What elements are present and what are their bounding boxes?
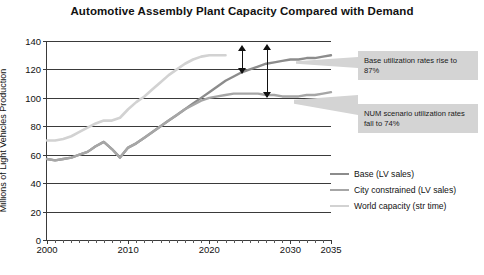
x-tick-2028 [274,240,275,243]
arrow-shaft [267,49,268,97]
y-tick-label-140: 140 [25,36,41,47]
chart-root: Automotive Assembly Plant Capacity Compa… [0,0,484,275]
x-tick-2026 [258,240,259,243]
series-layer [47,41,331,240]
legend-label-world-capacity: World capacity (str time) [354,201,446,211]
x-tick-2017 [185,240,186,243]
x-tick-2003 [71,240,72,243]
x-tick-2012 [144,240,145,243]
arrow-head-down [263,92,271,98]
legend-label-city-constrained: City constrained (LV sales) [354,185,456,195]
x-tick-2035 [331,240,332,244]
y-tick-label-80: 80 [30,121,41,132]
y-tick-label-100: 100 [25,92,41,103]
x-tick-2032 [307,240,308,243]
x-axis-line [46,240,332,241]
x-tick-2011 [136,240,137,243]
legend-item-city-constrained[interactable]: City constrained (LV sales) [330,182,456,198]
x-tick-2018 [193,240,194,243]
y-tick-label-120: 120 [25,64,41,75]
arrow-head-down [238,68,246,74]
y-tick-label-20: 20 [30,206,41,217]
x-tick-2034 [323,240,324,243]
chart-title: Automotive Assembly Plant Capacity Compa… [0,5,484,17]
x-tick-2020 [209,240,210,244]
legend-swatch-base [330,173,349,175]
x-tick-2025 [250,240,251,243]
x-tick-2021 [217,240,218,243]
legend-swatch-world-capacity [330,205,349,207]
x-tick-2002 [63,240,64,243]
legend-label-base: Base (LV sales) [354,169,414,179]
x-tick-2010 [128,240,129,244]
x-tick-2016 [177,240,178,243]
x-tick-2030 [290,240,291,244]
x-tick-2009 [120,240,121,243]
x-tick-2007 [104,240,105,243]
x-tick-label-2030: 2030 [280,244,301,255]
x-tick-2022 [226,240,227,243]
x-tick-2001 [55,240,56,243]
x-tick-2031 [299,240,300,243]
x-tick-2024 [242,240,243,243]
y-tick-label-60: 60 [30,149,41,160]
x-tick-2004 [79,240,80,243]
y-tick-label-40: 40 [30,178,41,189]
x-tick-label-2020: 2020 [199,244,220,255]
arrow-head-up [263,44,271,50]
plot-area: 140 120 100 80 60 40 20 0 2000 2010 2020… [47,41,331,240]
legend-swatch-city-constrained [330,189,349,191]
x-tick-label-2010: 2010 [118,244,139,255]
x-tick-2000 [47,240,48,244]
x-tick-2033 [315,240,316,243]
callout-num-scenario: NUM scenario utilization rates fall to 7… [358,104,478,133]
legend-item-base[interactable]: Base (LV sales) [330,166,456,182]
x-tick-2019 [201,240,202,243]
x-tick-2029 [282,240,283,243]
x-tick-label-2000: 2000 [36,244,57,255]
x-tick-2008 [112,240,113,243]
legend: Base (LV sales) City constrained (LV sal… [330,166,456,214]
x-tick-2014 [161,240,162,243]
x-tick-2023 [234,240,235,243]
series-line-world-capacity [47,55,226,140]
legend-item-world-capacity[interactable]: World capacity (str time) [330,198,456,214]
x-tick-2027 [266,240,267,243]
callout-base-utilization: Base utilization rates rise to 87% [358,51,478,80]
arrow-head-up [238,45,246,51]
x-tick-2015 [169,240,170,243]
x-tick-2006 [96,240,97,243]
y-axis-title: Millions of Light Vehicles Production [0,41,8,240]
x-tick-label-2035: 2035 [320,244,341,255]
x-tick-2005 [88,240,89,243]
x-tick-2013 [152,240,153,243]
